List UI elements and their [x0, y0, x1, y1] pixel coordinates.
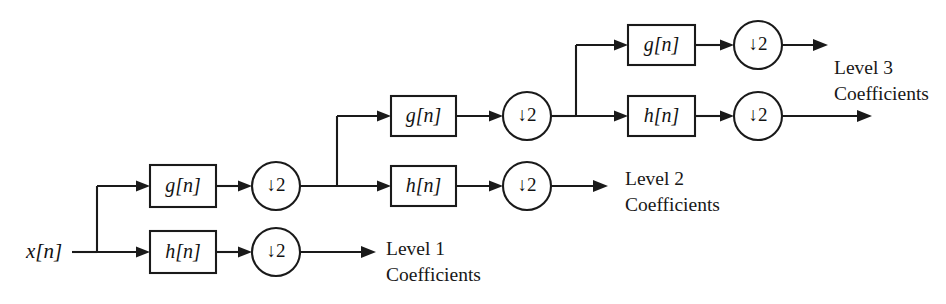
arrowhead-stage3-h-in: [614, 111, 628, 122]
level3-coefficients-label-line2: Coefficients: [834, 83, 929, 104]
level1-coefficients-label-line1: Level 1: [386, 238, 445, 259]
arrowhead-stage1-h-in: [136, 247, 150, 258]
stage3-highpass-filter-label: g[n]: [644, 33, 680, 56]
input-wire-group: [72, 181, 150, 258]
stage3-lowpass-filter-label: h[n]: [644, 104, 680, 126]
arrowhead-level3-lowpass-output: [857, 110, 872, 122]
stage3-lowpass-downsampler-label: ↓2: [749, 104, 768, 125]
wavelet-decomposition-diagram: x[n] g[n] h[n] ↓2 ↓2 Level 1 Coefficient…: [0, 0, 946, 304]
arrowhead-stage2-h-down: [489, 181, 503, 192]
arrowhead-stage2-h-in: [377, 181, 391, 192]
stage1-highpass-filter-label: g[n]: [165, 174, 201, 197]
stage3-branch-group: [551, 40, 628, 122]
stage1-lowpass-downsampler-label: ↓2: [267, 240, 286, 261]
stage2-highpass-filter-label: g[n]: [406, 104, 442, 127]
level2-coefficients-label-line2: Coefficients: [625, 194, 720, 215]
arrowhead-stage3-g-in: [614, 40, 628, 51]
level1-coefficients-label-line2: Coefficients: [386, 264, 481, 285]
stage1-lowpass-filter-label: h[n]: [165, 240, 201, 262]
arrowhead-level3-highpass-output: [813, 39, 828, 51]
stage2-lowpass-downsampler-label: ↓2: [518, 174, 537, 195]
stage2-highpass-downsampler-label: ↓2: [518, 104, 537, 125]
stage2-branch-group: [300, 111, 391, 192]
stage3-highpass-downsampler-label: ↓2: [749, 33, 768, 54]
arrowhead-stage3-h-down: [720, 111, 734, 122]
arrowhead-stage2-g-in: [377, 111, 391, 122]
input-signal-label: x[n]: [25, 239, 62, 263]
arrowhead-stage1-h-down: [238, 247, 252, 258]
level2-coefficients-label-line1: Level 2: [625, 168, 684, 189]
arrowhead-level1-output: [361, 246, 376, 258]
arrowhead-stage1-g-in: [136, 181, 150, 192]
arrowhead-stage1-g-down: [238, 181, 252, 192]
stage2-lowpass-filter-label: h[n]: [406, 174, 442, 196]
stage1-highpass-downsampler-label: ↓2: [267, 174, 286, 195]
level3-coefficients-label-line1: Level 3: [834, 57, 893, 78]
arrowhead-stage3-g-down: [720, 40, 734, 51]
arrowhead-level2-output: [593, 180, 608, 192]
diagram-canvas: x[n] g[n] h[n] ↓2 ↓2 Level 1 Coefficient…: [0, 0, 946, 304]
arrowhead-stage2-g-down: [489, 111, 503, 122]
